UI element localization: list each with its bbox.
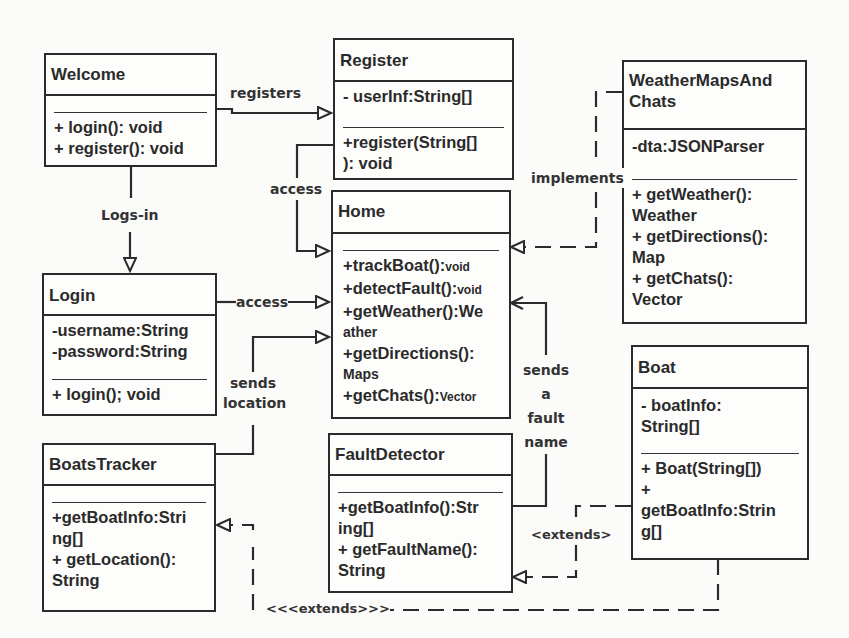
sends-location-connector — [216, 425, 253, 454]
method: +getBoatInfo():Str — [338, 497, 503, 518]
method: g[] — [641, 521, 799, 542]
method: Vector — [632, 289, 797, 310]
method: + getChats(): — [632, 268, 797, 289]
class-boat[interactable]: Boat - boatInfo: String[] + Boat(String[… — [631, 345, 809, 560]
method: +getBoatInfo:Stri — [52, 507, 206, 528]
method: + login(); void — [52, 384, 207, 405]
class-welcome-title: Welcome — [46, 55, 215, 96]
sends-fault-connector — [512, 452, 546, 506]
method: String — [338, 560, 503, 581]
class-welcome[interactable]: Welcome + login(): void + register(): vo… — [44, 53, 217, 167]
extends-fault-connector — [576, 506, 631, 522]
label-extends-fault: <extends> — [531, 525, 611, 545]
method: + getWeather(): — [632, 184, 797, 205]
method: + Boat(String[]) — [641, 458, 799, 479]
method: ather — [343, 322, 507, 343]
attribute: - userInf:String[] — [343, 86, 504, 107]
registers-connector — [216, 109, 331, 113]
class-fault-detector[interactable]: FaultDetector +getBoatInfo():Str ing[] +… — [328, 433, 513, 593]
divider — [52, 502, 206, 503]
label-implements: implements — [531, 168, 624, 188]
method: getBoatInfo:Strin — [641, 500, 799, 521]
label-access-register: access — [270, 179, 322, 199]
method: + getLocation(): — [52, 549, 206, 570]
attribute: - boatInfo: — [641, 395, 799, 416]
class-login[interactable]: Login -username:String -password:String … — [42, 273, 217, 416]
method: + getDirections(): — [632, 226, 797, 247]
method: +getDirections(): — [343, 343, 507, 364]
method: +getWeather():We — [343, 301, 507, 322]
method: +register(String[] — [343, 132, 504, 153]
class-register[interactable]: Register - userInf:String[] +register(St… — [333, 38, 514, 180]
method: +trackBoat():void — [343, 255, 507, 278]
method: Weather — [632, 205, 797, 226]
implements-connector — [596, 92, 622, 160]
register-access-connector — [297, 145, 333, 178]
label-logs-in: Logs-in — [101, 205, 158, 225]
class-weather-maps-and-chats[interactable]: WeatherMapsAnd Chats -dta:JSONParser + g… — [622, 60, 807, 324]
attribute: -password:String — [52, 341, 207, 362]
method: + login(): void — [54, 117, 207, 138]
label-sends-fault-name: sends a fault name — [521, 358, 571, 454]
class-boats-tracker[interactable]: BoatsTracker +getBoatInfo:Stri ng[] + ge… — [42, 443, 216, 612]
method: Map — [632, 247, 797, 268]
method: ): void — [343, 153, 504, 174]
label-sends-location: sends location — [223, 373, 283, 413]
attribute: -username:String — [52, 320, 207, 341]
label-registers: registers — [230, 83, 301, 103]
class-weather-title: WeatherMapsAnd Chats — [624, 62, 805, 130]
class-boats-tracker-title: BoatsTracker — [44, 445, 214, 486]
class-home[interactable]: Home +trackBoat():void +detectFault():vo… — [331, 190, 511, 419]
method: + getFaultName(): — [338, 539, 503, 560]
divider — [52, 379, 207, 380]
class-fault-detector-title: FaultDetector — [330, 435, 511, 476]
class-register-title: Register — [335, 40, 512, 82]
method: ng[] — [52, 528, 206, 549]
method: +detectFault():void — [343, 278, 507, 301]
method: ing[] — [338, 518, 503, 539]
method: String — [52, 570, 206, 591]
divider — [632, 179, 797, 180]
class-home-title: Home — [333, 192, 509, 234]
divider — [338, 492, 503, 493]
class-login-title: Login — [44, 275, 215, 316]
method: + — [641, 479, 799, 500]
method: Maps — [343, 364, 507, 385]
divider — [54, 112, 207, 113]
method: + register(): void — [54, 138, 207, 159]
divider — [343, 250, 499, 251]
label-extends-tracker: <<<extends>>> — [266, 599, 390, 619]
attribute: -dta:JSONParser — [632, 136, 797, 157]
class-boat-title: Boat — [633, 347, 807, 389]
label-access-login: access — [236, 292, 288, 312]
method: +getChats():Vector — [343, 385, 507, 408]
divider — [343, 127, 504, 128]
divider — [641, 453, 799, 454]
attribute: String[] — [641, 416, 799, 437]
